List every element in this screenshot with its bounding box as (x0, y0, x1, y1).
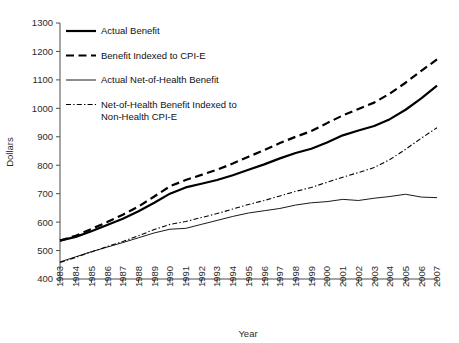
y-tick-label: 1000 (32, 103, 53, 114)
legend-label-3: Actual Net-of-Health Benefit (101, 74, 219, 85)
line-chart: 4005006007008009001000110012001300 19831… (0, 0, 459, 343)
legend-label-1: Actual Benefit (101, 25, 160, 36)
x-tick-label: 2000 (321, 266, 332, 287)
y-tick-label: 1100 (33, 74, 53, 85)
x-tick-label: 1985 (86, 266, 97, 287)
legend-label-4: Net-of-Health Benefit Indexed to (101, 99, 237, 110)
chart-background (0, 0, 459, 343)
x-tick-label: 1992 (196, 266, 207, 287)
x-tick-label: 1991 (180, 266, 191, 287)
x-axis-title: Year (238, 328, 257, 339)
x-tick-label: 1989 (149, 266, 160, 287)
x-tick-label: 1986 (102, 266, 113, 287)
y-tick-label: 1200 (32, 46, 53, 57)
x-tick-label: 1993 (211, 266, 222, 287)
x-tick-label: 2004 (384, 266, 395, 287)
x-tick-label: 1995 (243, 266, 254, 287)
x-tick-label: 1996 (259, 266, 270, 287)
y-tick-label: 800 (37, 160, 53, 171)
y-tick-label: 500 (37, 245, 53, 256)
chart-container: 4005006007008009001000110012001300 19831… (0, 0, 459, 343)
x-tick-label: 1997 (274, 266, 285, 287)
legend-label-4-line2: Non-Health CPI-E (101, 111, 177, 122)
x-tick-label: 2001 (337, 266, 348, 287)
y-axis-title: Dollars (4, 137, 15, 167)
y-tick-label: 700 (37, 188, 53, 199)
y-tick-label: 400 (37, 273, 53, 284)
x-tick-label: 1998 (290, 266, 301, 287)
y-tick-label: 600 (37, 217, 53, 228)
x-tick-label: 2005 (400, 266, 411, 287)
x-tick-label: 1990 (164, 266, 175, 287)
x-tick-label: 1984 (70, 266, 81, 287)
legend-label-2: Benefit Indexed to CPI-E (101, 50, 206, 61)
x-tick-label: 2007 (431, 266, 442, 287)
x-tick-label: 1983 (54, 266, 65, 287)
y-tick-label: 900 (37, 131, 53, 142)
x-tick-label: 1988 (133, 266, 144, 287)
x-tick-label: 1994 (227, 266, 238, 287)
y-tick-label: 1300 (32, 17, 53, 28)
x-tick-label: 2006 (416, 266, 427, 287)
x-tick-label: 2002 (353, 266, 364, 287)
x-tick-label: 1999 (306, 266, 317, 287)
x-tick-label: 1987 (117, 266, 128, 287)
x-tick-label: 2003 (369, 266, 380, 287)
